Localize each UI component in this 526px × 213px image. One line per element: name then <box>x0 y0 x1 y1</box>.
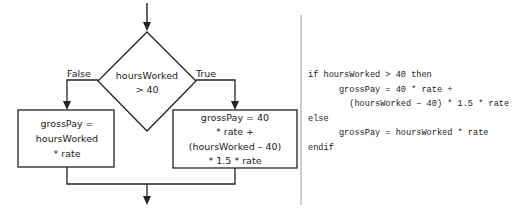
code-line: if hoursWorked > 40 then <box>308 68 509 83</box>
true-box-line: grossPay = 40 <box>201 112 269 123</box>
false-box-line: hoursWorked <box>36 133 98 144</box>
decision-text-line1: hoursWorked <box>116 70 178 81</box>
true-label: True <box>195 68 216 79</box>
false-box-line: grossPay = <box>40 118 93 129</box>
entry-arrow <box>143 3 151 31</box>
decision-text-line2: > 40 <box>135 84 158 95</box>
false-branch: False <box>63 68 98 110</box>
code-line: grossPay = hoursWorked * rate <box>308 126 509 141</box>
true-process-box: grossPay = 40 * rate + (hoursWorked – 40… <box>173 110 297 168</box>
code-line: (hoursWorked – 40) * 1.5 * rate <box>308 97 509 112</box>
decision-diamond: hoursWorked > 40 <box>98 32 196 131</box>
code-line: endif <box>308 141 509 156</box>
pseudocode-block: if hoursWorked > 40 then grossPay = 40 *… <box>308 68 509 156</box>
false-label: False <box>67 68 91 79</box>
false-box-line: * rate <box>53 148 80 159</box>
code-line: grossPay = 40 * rate + <box>308 83 509 98</box>
code-line: else <box>308 112 509 127</box>
true-box-line: * rate + <box>216 126 254 137</box>
false-process-box: grossPay = hoursWorked * rate <box>18 110 114 167</box>
merge-connector <box>67 167 235 205</box>
true-box-line: (hoursWorked – 40) <box>189 141 282 152</box>
true-box-line: * 1.5 * rate <box>209 155 262 166</box>
true-branch: True <box>195 68 239 110</box>
